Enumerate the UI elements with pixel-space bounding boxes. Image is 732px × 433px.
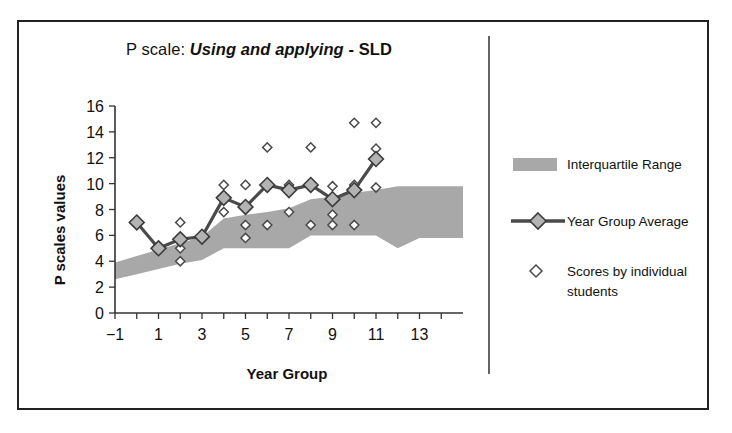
svg-text:10: 10 <box>86 176 104 193</box>
figure-frame: P scale: Using and applying - SLD 024681… <box>17 20 709 410</box>
svg-text:13: 13 <box>411 326 429 343</box>
svg-text:3: 3 <box>198 326 207 343</box>
score-point <box>306 143 315 152</box>
svg-text:4: 4 <box>95 253 104 270</box>
legend-label-average: Year Group Average <box>567 214 689 229</box>
score-point <box>371 118 380 127</box>
legend-label-scores-line2: students <box>567 284 618 299</box>
chart-legend: Interquartile Range Year Group Average S… <box>511 157 689 299</box>
svg-text:1: 1 <box>154 326 163 343</box>
svg-text:2: 2 <box>95 279 104 296</box>
chart-plot-area: 0246810121416 −1135791113 P scales value… <box>19 22 711 410</box>
svg-text:−1: −1 <box>106 326 124 343</box>
x-axis-ticks <box>115 313 441 319</box>
score-point <box>328 182 337 191</box>
score-point <box>176 218 185 227</box>
legend-label-scores-line1: Scores by individual <box>567 264 687 279</box>
svg-text:12: 12 <box>86 150 104 167</box>
svg-text:7: 7 <box>285 326 294 343</box>
svg-text:11: 11 <box>368 326 385 343</box>
legend-label-iqr: Interquartile Range <box>567 157 682 172</box>
x-axis-tick-labels: −1135791113 <box>106 326 429 343</box>
score-point <box>219 180 228 189</box>
score-point <box>263 143 272 152</box>
x-axis-title: Year Group <box>247 365 328 382</box>
svg-text:14: 14 <box>86 124 104 141</box>
score-point <box>241 180 250 189</box>
legend-swatch-iqr <box>513 158 557 171</box>
score-point <box>219 207 228 216</box>
iqr-band-area <box>115 186 463 279</box>
average-point <box>216 190 231 205</box>
legend-diamond-average <box>530 213 546 229</box>
y-axis-tick-labels: 0246810121416 <box>86 98 104 322</box>
svg-text:6: 6 <box>95 227 104 244</box>
svg-text:0: 0 <box>95 305 104 322</box>
y-axis-title: P scales values <box>51 175 68 286</box>
score-point <box>350 118 359 127</box>
svg-text:8: 8 <box>95 202 104 219</box>
y-axis-ticks <box>109 106 115 313</box>
legend-diamond-scores <box>530 265 542 277</box>
svg-text:5: 5 <box>241 326 250 343</box>
svg-text:16: 16 <box>86 98 104 115</box>
svg-text:9: 9 <box>328 326 337 343</box>
